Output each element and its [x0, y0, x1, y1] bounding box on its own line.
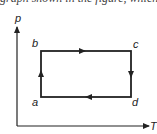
- arrow-right-icon: [79, 48, 86, 54]
- point-label-c: c: [133, 38, 139, 50]
- pt-cycle-diagram: p T b c a d: [0, 0, 157, 134]
- arrow-left-icon: [85, 94, 92, 100]
- point-label-b: b: [32, 37, 38, 49]
- x-axis-label: T: [150, 120, 157, 132]
- arrow-up-icon: [38, 70, 44, 77]
- point-label-d: d: [132, 96, 139, 108]
- cycle-path: [41, 51, 131, 97]
- arrow-down-icon: [128, 71, 134, 78]
- point-label-a: a: [32, 96, 38, 108]
- y-axis-label: p: [14, 12, 21, 24]
